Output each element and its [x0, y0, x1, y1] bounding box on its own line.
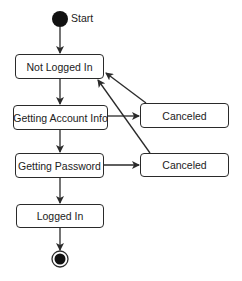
state-label: Canceled [162, 159, 206, 171]
diagram-canvas [0, 0, 242, 281]
state-label: Getting Password [18, 160, 101, 172]
state-logged-in: Logged In [16, 204, 104, 228]
state-label: Logged In [37, 210, 84, 222]
state-getting-password: Getting Password [15, 153, 104, 178]
start-node [52, 11, 68, 27]
state-label: Canceled [162, 110, 206, 122]
state-canceled-1: Canceled [140, 103, 229, 128]
transition-canceled-1-to-not-logged-in [106, 73, 146, 103]
state-label: Not Logged In [27, 61, 93, 73]
end-node [55, 254, 66, 265]
state-label: Getting Account Info [13, 112, 108, 124]
state-not-logged-in: Not Logged In [15, 54, 104, 79]
start-label: Start [71, 12, 93, 24]
state-getting-account-info: Getting Account Info [13, 105, 108, 130]
state-canceled-2: Canceled [140, 153, 229, 177]
